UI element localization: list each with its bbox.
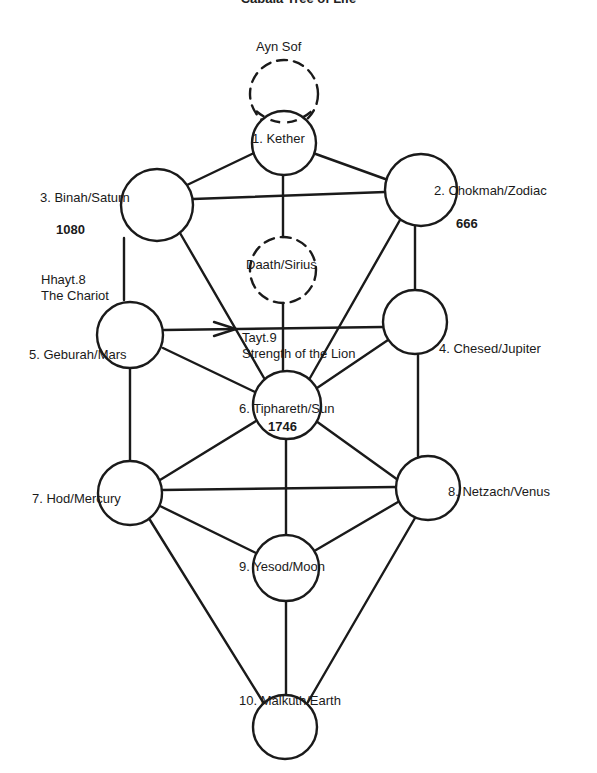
edge-kether-binah <box>187 153 254 185</box>
label-hhayt-line1: Hhayt.8 <box>41 272 86 288</box>
tree-of-life-diagram <box>0 0 597 773</box>
label-chesed: 4. Chesed/Jupiter <box>439 341 541 357</box>
label-yesod: 9. Yesod/Moon <box>239 559 325 575</box>
edge-binah-chokmah <box>193 192 385 199</box>
edge-kether-chokmah <box>313 153 388 180</box>
label-malkuth: 10. Malkuth/Earth <box>239 693 341 709</box>
label-tayt-line2: Strength of the Lion <box>242 346 355 362</box>
label-binah: 3. Binah/Saturn <box>40 190 130 206</box>
label-hod: 7. Hod/Mercury <box>32 491 121 507</box>
value-binah: 1080 <box>56 222 85 237</box>
value-chokmah: 666 <box>456 216 478 231</box>
edge-hod-yesod <box>160 506 256 553</box>
label-daath: Daath/Sirius <box>246 257 317 273</box>
edge-netzach-yesod <box>316 502 398 550</box>
label-kether: 1. Kether <box>252 131 305 147</box>
node-binah <box>121 169 193 241</box>
edge-tiphareth-netzach <box>316 421 398 480</box>
label-ayn-sof: Ayn Sof <box>256 39 301 55</box>
value-tiphareth: 1746 <box>268 419 297 434</box>
label-tiphareth: 6. Tiphareth/Sun <box>239 401 334 417</box>
edge-hod-netzach <box>162 487 396 490</box>
label-chokmah: 2. Chokmah/Zodiac <box>434 183 547 199</box>
label-hhayt-line2: The Chariot <box>41 288 109 304</box>
label-netzach: 8. Netzach/Venus <box>448 484 550 500</box>
label-tayt-line1: Tayt.9 <box>242 330 277 346</box>
label-geburah: 5. Geburah/Mars <box>29 347 127 363</box>
edge-tiphareth-hod <box>160 421 256 480</box>
node-chesed <box>383 290 447 354</box>
